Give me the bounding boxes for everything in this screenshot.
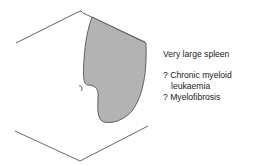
differential-2: ? Myelofibrosis (163, 92, 232, 103)
differential-1: ? Chronic myeloid (163, 70, 232, 81)
differential-1-line2: leukaemia (163, 81, 232, 92)
differential-2-line1: Myelofibrosis (170, 92, 220, 102)
caption: Very large spleen ? Chronic myeloid leuk… (163, 49, 232, 103)
differential-1-line1: Chronic myeloid (170, 70, 232, 80)
caption-title: Very large spleen (163, 49, 232, 60)
lower-abdomen-outline (15, 126, 148, 161)
spleen-shape (83, 17, 146, 123)
umbilicus-icon (79, 86, 82, 91)
